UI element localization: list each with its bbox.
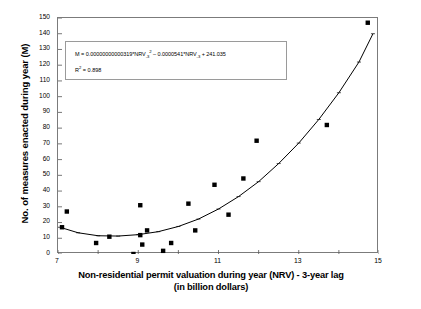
- y-tick-label: 100: [0, 93, 50, 100]
- equation-suffix: + 241.035: [200, 51, 226, 57]
- data-point: [145, 228, 149, 232]
- y-tick-label: 130: [0, 45, 50, 52]
- x-tick-label: 11: [206, 257, 230, 264]
- plot-area: M = 0.00000000000319*NRV-32 – 0.0000541*…: [57, 17, 378, 253]
- data-point: [241, 176, 245, 180]
- x-tick-label: 9: [125, 257, 149, 264]
- data-point: [140, 242, 144, 246]
- y-tick-label: 0: [0, 250, 50, 257]
- y-tick-label: 110: [0, 77, 50, 84]
- equation-middle: – 0.0000541*NRV: [152, 51, 197, 57]
- y-tick-label: 140: [0, 30, 50, 37]
- x-tick-label: 15: [366, 257, 390, 264]
- data-point: [131, 252, 135, 254]
- chart-container: No. of measures enacted during year (M) …: [0, 0, 421, 309]
- y-tick-label: 20: [0, 218, 50, 225]
- data-point: [193, 228, 197, 232]
- y-tick-label: 60: [0, 156, 50, 163]
- x-axis-title-line1: Non-residential permit valuation during …: [78, 270, 344, 280]
- equation-prefix: M = 0.00000000000319*NRV: [75, 51, 146, 57]
- data-point: [138, 203, 142, 207]
- data-point: [65, 209, 69, 213]
- y-tick-label: 40: [0, 187, 50, 194]
- y-tick-label: 50: [0, 171, 50, 178]
- y-tick-label: 10: [0, 234, 50, 241]
- y-tick-label: 120: [0, 61, 50, 68]
- y-tick-label: 30: [0, 203, 50, 210]
- data-point: [325, 123, 329, 127]
- y-tick-label: 150: [0, 14, 50, 21]
- x-tick-label: 13: [286, 257, 310, 264]
- data-point: [60, 225, 64, 229]
- equation-subscript-1: -3: [146, 54, 150, 59]
- x-axis-title-line2: (in billion dollars): [38, 282, 384, 294]
- regression-equation-text: M = 0.00000000000319*NRV-32 – 0.0000541*…: [75, 51, 226, 58]
- r-squared-text: R2 = 0.898: [75, 67, 101, 74]
- data-point: [107, 234, 111, 238]
- data-point: [254, 139, 258, 143]
- data-point: [212, 183, 216, 187]
- data-point: [226, 212, 230, 216]
- y-tick-label: 80: [0, 124, 50, 131]
- y-tick-label: 70: [0, 140, 50, 147]
- r2-value: = 0.898: [81, 67, 101, 73]
- data-point: [161, 249, 165, 253]
- x-tick-label: 7: [45, 257, 69, 264]
- data-point: [138, 233, 142, 237]
- data-point: [94, 241, 98, 245]
- data-point: [366, 21, 370, 25]
- x-axis-title: Non-residential permit valuation during …: [38, 270, 384, 293]
- equation-annotation-box: M = 0.00000000000319*NRV-32 – 0.0000541*…: [65, 41, 287, 80]
- y-tick-label: 90: [0, 108, 50, 115]
- data-point: [169, 241, 173, 245]
- data-point: [186, 201, 190, 205]
